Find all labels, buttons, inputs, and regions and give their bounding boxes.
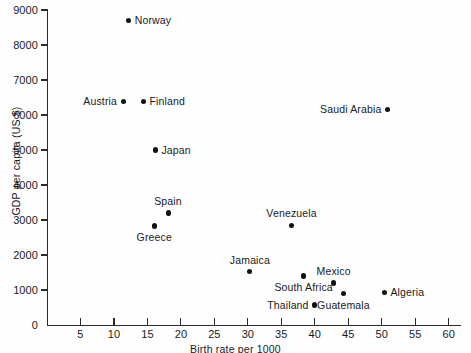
point-label-thailand: Thailand xyxy=(267,300,308,311)
y-tick-label-text: 1000 xyxy=(13,285,38,296)
x-tick-label-10: 10 xyxy=(99,329,129,340)
data-point-mexico[interactable] xyxy=(331,280,336,285)
x-axis-line xyxy=(47,325,461,326)
y-tick-5000 xyxy=(41,149,48,150)
data-point-venezuela[interactable] xyxy=(289,223,294,228)
x-tick-25 xyxy=(214,318,215,325)
point-label-greece: Greece xyxy=(137,232,172,243)
point-label-saudi-arabia: Saudi Arabia xyxy=(320,104,381,115)
point-label-japan: Japan xyxy=(161,145,190,156)
y-tick-2000 xyxy=(41,254,48,255)
y-tick-label-text: 7000 xyxy=(13,75,38,86)
y-tick-7000 xyxy=(41,79,48,80)
x-tick-label-55: 55 xyxy=(400,329,430,340)
y-tick-label-8000: 8000 xyxy=(0,40,38,51)
data-point-japan[interactable] xyxy=(153,147,158,152)
y-tick-3000 xyxy=(41,219,48,220)
data-point-jamaica[interactable] xyxy=(247,269,252,274)
y-tick-6000 xyxy=(41,114,48,115)
y-tick-label-2000: 2000 xyxy=(0,250,38,261)
x-tick-10 xyxy=(113,318,114,325)
point-label-finland: Finland xyxy=(149,96,185,107)
x-tick-label-40: 40 xyxy=(300,329,330,340)
y-tick-8000 xyxy=(41,44,48,45)
data-point-greece[interactable] xyxy=(152,223,157,228)
y-tick-label-9000: 9000 xyxy=(0,5,38,16)
y-tick-9000 xyxy=(41,9,48,10)
y-tick-label-1000: 1000 xyxy=(0,285,38,296)
y-tick-label-0: 0 xyxy=(0,320,38,331)
y-tick-label-text: 9000 xyxy=(13,5,38,16)
y-tick-label-text: 0 xyxy=(32,320,38,331)
data-point-thailand[interactable] xyxy=(312,302,317,307)
y-tick-1000 xyxy=(41,289,48,290)
y-axis-title: GDP per capita (US $) xyxy=(10,91,22,231)
x-tick-label-20: 20 xyxy=(166,329,196,340)
point-label-venezuela: Venezuela xyxy=(266,208,316,219)
x-tick-35 xyxy=(281,318,282,325)
point-label-norway: Norway xyxy=(135,15,172,26)
scatter-plot-figure: 0100020003000400050006000700080009000 51… xyxy=(0,0,471,353)
point-label-algeria: Algeria xyxy=(390,287,424,298)
x-tick-45 xyxy=(348,318,349,325)
x-tick-label-50: 50 xyxy=(367,329,397,340)
x-tick-label-60: 60 xyxy=(434,329,464,340)
x-tick-20 xyxy=(180,318,181,325)
y-tick-label-7000: 7000 xyxy=(0,75,38,86)
y-tick-label-text: 2000 xyxy=(13,250,38,261)
x-tick-label-35: 35 xyxy=(266,329,296,340)
y-axis-line xyxy=(47,10,48,326)
x-tick-15 xyxy=(147,318,148,325)
data-point-norway[interactable] xyxy=(126,18,131,23)
data-point-finland[interactable] xyxy=(141,99,146,104)
point-label-austria: Austria xyxy=(83,96,117,107)
x-tick-60 xyxy=(448,318,449,325)
point-label-jamaica: Jamaica xyxy=(230,255,270,266)
data-point-spain[interactable] xyxy=(166,210,171,215)
x-tick-50 xyxy=(381,318,382,325)
y-tick-4000 xyxy=(41,184,48,185)
x-tick-55 xyxy=(415,318,416,325)
point-label-south-africa: South Africa xyxy=(274,282,332,293)
x-tick-5 xyxy=(80,318,81,325)
x-tick-30 xyxy=(247,318,248,325)
x-tick-label-25: 25 xyxy=(199,329,229,340)
point-label-spain: Spain xyxy=(154,196,182,207)
data-point-saudi-arabia[interactable] xyxy=(385,107,390,112)
x-tick-40 xyxy=(314,318,315,325)
data-point-guatemala[interactable] xyxy=(341,291,346,296)
x-axis-title: Birth rate per 1000 xyxy=(0,343,471,353)
x-tick-label-5: 5 xyxy=(65,329,95,340)
x-tick-label-30: 30 xyxy=(233,329,263,340)
data-point-algeria[interactable] xyxy=(382,290,387,295)
data-point-south-africa[interactable] xyxy=(301,273,306,278)
x-tick-label-45: 45 xyxy=(333,329,363,340)
point-label-mexico: Mexico xyxy=(317,266,351,277)
x-tick-label-15: 15 xyxy=(132,329,162,340)
y-tick-label-text: 8000 xyxy=(13,40,38,51)
data-point-austria[interactable] xyxy=(121,99,126,104)
point-label-guatemala: Guatemala xyxy=(317,300,370,311)
